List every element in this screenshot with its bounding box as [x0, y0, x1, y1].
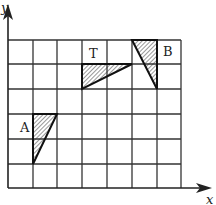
triangle-a-label: A: [19, 120, 30, 135]
y-axis: y: [0, 0, 13, 188]
x-axis: x: [8, 183, 214, 205]
x-axis-label: x: [206, 192, 214, 205]
triangle-b-label: B: [163, 44, 173, 59]
coordinate-grid-diagram: y x A T B: [0, 0, 216, 205]
triangle-t-label: T: [89, 46, 98, 61]
y-axis-label: y: [0, 0, 9, 15]
